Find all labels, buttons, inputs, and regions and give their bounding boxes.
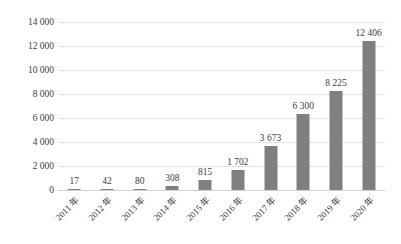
x-axis-tick-label: 2014 年 bbox=[152, 195, 180, 223]
bar-slot: 8 225 bbox=[320, 22, 353, 190]
x-axis-label-slot: 2015 年 bbox=[189, 191, 222, 244]
x-axis-tick-label: 2017 年 bbox=[250, 195, 278, 223]
y-axis-tick-label: 12 000 bbox=[0, 41, 54, 51]
x-axis-tick-label: 2020 年 bbox=[348, 195, 376, 223]
x-axis-tick-label: 2012 年 bbox=[86, 195, 114, 223]
bar[interactable] bbox=[329, 91, 342, 190]
y-axis-tick-label: 0 bbox=[0, 185, 54, 195]
x-axis-label-slot: 2019 年 bbox=[320, 191, 353, 244]
x-axis-label-slot: 2013 年 bbox=[123, 191, 156, 244]
x-axis-label-slot: 2014 年 bbox=[156, 191, 189, 244]
x-axis-tick-label: 2015 年 bbox=[184, 195, 212, 223]
bar[interactable] bbox=[199, 180, 212, 190]
bar-slot: 815 bbox=[189, 22, 222, 190]
bar-chart: 02 0004 0006 0008 00010 00012 00014 000 … bbox=[0, 0, 401, 244]
bar-slot: 42 bbox=[91, 22, 124, 190]
bar-value-label: 80 bbox=[135, 176, 145, 187]
bar-value-label: 308 bbox=[165, 173, 179, 184]
bar-value-label: 12 406 bbox=[356, 28, 382, 39]
bar-slot: 308 bbox=[156, 22, 189, 190]
bar[interactable] bbox=[101, 189, 114, 190]
bar-value-label: 815 bbox=[198, 167, 212, 178]
x-axis-tick-label: 2019 年 bbox=[315, 195, 343, 223]
bar-value-label: 8 225 bbox=[325, 78, 346, 89]
x-axis-labels: 2011 年2012 年2013 年2014 年2015 年2016 年2017… bbox=[58, 191, 385, 244]
bar-value-label: 6 300 bbox=[293, 101, 314, 112]
bar-series: 1742803088151 7023 6736 3008 22512 406 bbox=[58, 22, 385, 190]
bar[interactable] bbox=[297, 114, 310, 190]
bar[interactable] bbox=[231, 170, 244, 190]
x-axis-label-slot: 2012 年 bbox=[91, 191, 124, 244]
x-axis-tick-label: 2018 年 bbox=[283, 195, 311, 223]
x-axis-tick-label: 2013 年 bbox=[119, 195, 147, 223]
bar-slot: 80 bbox=[123, 22, 156, 190]
bar-slot: 17 bbox=[58, 22, 91, 190]
y-axis-tick-label: 8 000 bbox=[0, 89, 54, 99]
bar-value-label: 17 bbox=[70, 176, 80, 187]
bar-value-label: 3 673 bbox=[260, 133, 281, 144]
y-axis-tick-label: 4 000 bbox=[0, 137, 54, 147]
y-axis-labels: 02 0004 0006 0008 00010 00012 00014 000 bbox=[0, 0, 54, 244]
y-axis-tick-label: 2 000 bbox=[0, 161, 54, 171]
bar-slot: 12 406 bbox=[352, 22, 385, 190]
x-axis-label-slot: 2018 年 bbox=[287, 191, 320, 244]
bar[interactable] bbox=[362, 41, 375, 190]
x-axis-tick-label: 2011 年 bbox=[54, 195, 82, 223]
bar-slot: 6 300 bbox=[287, 22, 320, 190]
bar-value-label: 42 bbox=[102, 176, 112, 187]
x-axis-label-slot: 2017 年 bbox=[254, 191, 287, 244]
x-axis-label-slot: 2020 年 bbox=[352, 191, 385, 244]
bar-value-label: 1 702 bbox=[227, 157, 248, 168]
bar-slot: 3 673 bbox=[254, 22, 287, 190]
bar[interactable] bbox=[264, 146, 277, 190]
bar[interactable] bbox=[166, 186, 179, 190]
y-axis-tick-label: 14 000 bbox=[0, 17, 54, 27]
y-axis-tick-label: 10 000 bbox=[0, 65, 54, 75]
bar[interactable] bbox=[68, 189, 81, 190]
x-axis-label-slot: 2011 年 bbox=[58, 191, 91, 244]
x-axis-label-slot: 2016 年 bbox=[222, 191, 255, 244]
y-axis-tick-label: 6 000 bbox=[0, 113, 54, 123]
bar-slot: 1 702 bbox=[222, 22, 255, 190]
x-axis-tick-label: 2016 年 bbox=[217, 195, 245, 223]
bar[interactable] bbox=[133, 189, 146, 190]
